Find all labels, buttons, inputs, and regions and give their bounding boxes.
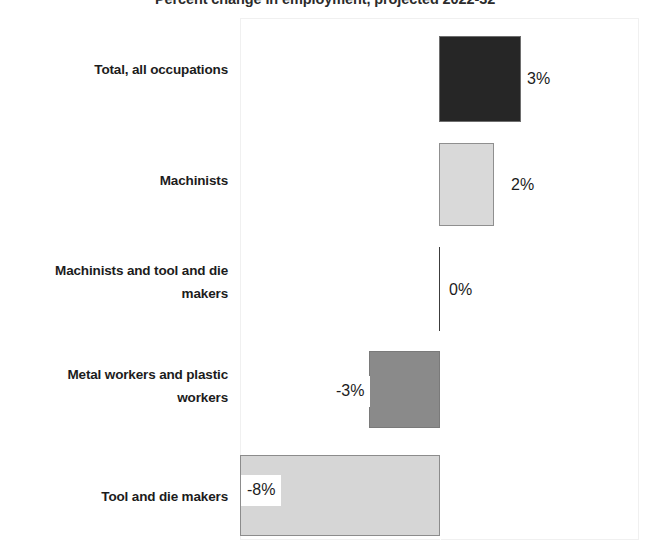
category-label-machinists-and-tool-and-die-makers-line2: makers (0, 283, 228, 305)
chart-row-total-all-occupations: Total, all occupations 3% (0, 18, 650, 122)
value-label-machinists-and-tool-and-die-makers: 0% (449, 282, 472, 298)
bar-total-all-occupations[interactable] (439, 36, 521, 122)
bar-chart: Percent change in employment, projected … (0, 0, 650, 552)
chart-row-machinists-and-tool-and-die-makers: Machinists and tool and die makers 0% (0, 227, 650, 332)
value-label-tool-and-die-makers: -8% (241, 475, 281, 506)
chart-row-machinists: Machinists 2% (0, 122, 650, 227)
chart-row-tool-and-die-makers: Tool and die makers -8% (0, 437, 650, 542)
category-label-total-all-occupations: Total, all occupations (0, 59, 228, 81)
bar-machinists[interactable] (439, 143, 494, 226)
bar-metal-workers-and-plastic-workers[interactable] (369, 351, 440, 428)
chart-title: Percent change in employment, projected … (0, 0, 650, 7)
value-label-total-all-occupations: 3% (527, 71, 550, 87)
category-label-machinists-and-tool-and-die-makers-line1: Machinists and tool and die (0, 260, 228, 282)
category-label-machinists: Machinists (0, 170, 228, 192)
value-label-metal-workers-and-plastic-workers: -3% (330, 376, 370, 407)
category-label-metal-workers-and-plastic-workers-line1: Metal workers and plastic (0, 364, 228, 386)
bar-machinists-and-tool-and-die-makers[interactable] (439, 247, 441, 331)
category-label-metal-workers-and-plastic-workers-line2: workers (0, 387, 228, 409)
chart-row-metal-workers-and-plastic-workers: Metal workers and plastic workers -3% (0, 332, 650, 437)
category-label-tool-and-die-makers: Tool and die makers (0, 486, 228, 508)
value-label-machinists: 2% (511, 177, 534, 193)
